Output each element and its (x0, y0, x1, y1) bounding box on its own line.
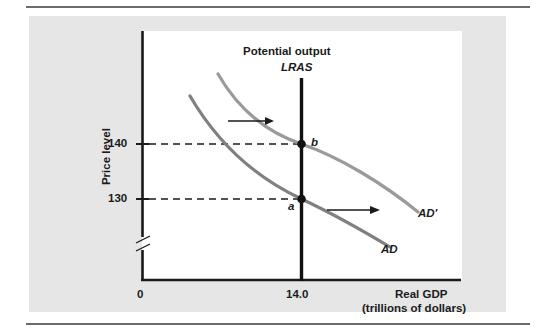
ad-curve-label: AD (381, 243, 398, 256)
figure-container: Potential output LRAS Price level 140 13… (0, 0, 551, 332)
x-axis-title-line2: (trillions of dollars) (362, 302, 466, 315)
potential-output-label: Potential output (243, 45, 331, 58)
equilibrium-point-b (297, 140, 306, 149)
x-tick-label-14: 14.0 (286, 288, 308, 301)
point-b-label: b (311, 136, 318, 149)
shift-arrow-lower (327, 206, 380, 214)
ad-prime-curve-label: AD' (418, 207, 437, 220)
y-axis-break-mark (136, 236, 150, 251)
x-tick-label-origin: 0 (137, 288, 143, 301)
y-tick-label-140: 140 (108, 137, 127, 150)
y-tick-label-130: 130 (108, 192, 127, 205)
point-a-label: a (288, 200, 294, 213)
lras-label: LRAS (281, 61, 312, 74)
shift-arrow-upper (228, 117, 274, 125)
x-axis-title-line1: Real GDP (395, 288, 447, 301)
equilibrium-point-a (297, 195, 306, 204)
